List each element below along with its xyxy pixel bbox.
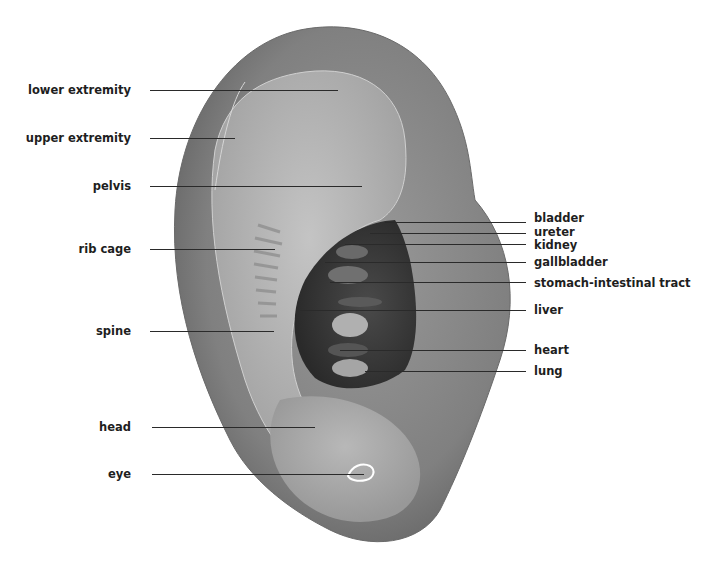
label-rib-cage: rib cage: [79, 242, 131, 256]
leader-kidney: [345, 244, 526, 245]
leader-lung: [365, 371, 526, 372]
leader-bladder: [385, 222, 526, 223]
leader-liver: [300, 310, 526, 311]
leader-pelvis: [150, 186, 362, 187]
label-liver: liver: [534, 303, 563, 317]
organ-kidney-shape: [336, 245, 368, 259]
label-spine: spine: [96, 324, 131, 338]
leader-gallbladder: [325, 262, 526, 263]
leader-head: [152, 427, 315, 428]
label-eye: eye: [108, 467, 131, 481]
label-gallbladder: gallbladder: [534, 255, 608, 269]
leader-eye: [152, 474, 364, 475]
organ-lung-lower-shape: [332, 359, 368, 377]
label-ureter: ureter: [534, 225, 575, 239]
leader-upper-extremity: [150, 138, 235, 139]
label-lung: lung: [534, 364, 563, 378]
leader-lower-extremity: [150, 90, 338, 91]
ear-diagram: lower extremity upper extremity pelvis r…: [0, 0, 713, 567]
label-upper-extremity: upper extremity: [26, 131, 131, 145]
label-head: head: [99, 420, 131, 434]
leader-spine: [150, 331, 274, 332]
organ-lung-shape: [332, 313, 368, 337]
leader-heart: [340, 350, 526, 351]
leader-rib-cage: [150, 249, 275, 250]
label-pelvis: pelvis: [93, 179, 131, 193]
leader-stomach-intestinal-tract: [330, 282, 526, 283]
label-kidney: kidney: [534, 238, 577, 252]
label-bladder: bladder: [534, 211, 584, 225]
label-heart: heart: [534, 343, 569, 357]
leader-ureter: [370, 233, 526, 234]
label-stomach-intestinal-tract: stomach-intestinal tract: [534, 276, 691, 290]
organ-liver-shape: [338, 297, 382, 307]
label-lower-extremity: lower extremity: [28, 83, 131, 97]
